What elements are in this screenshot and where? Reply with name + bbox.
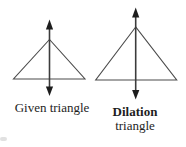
given-triangle-label: Given triangle (1, 101, 103, 115)
dilation-axis-arrowhead-up-icon (132, 8, 139, 18)
dilation-diagram: Given triangle Dilation triangle (0, 0, 186, 147)
dilation-axis-arrowhead-down-icon (132, 90, 139, 100)
given-axis-arrowhead-up-icon (46, 20, 53, 30)
scan-artifact (0, 137, 7, 141)
given-axis-arrowhead-down-icon (46, 87, 53, 97)
dilation-triangle-label: Dilation triangle (94, 105, 176, 132)
dilation-label-word-triangle: triangle (94, 119, 176, 133)
dilation-label-word-dilation: Dilation (94, 105, 176, 119)
